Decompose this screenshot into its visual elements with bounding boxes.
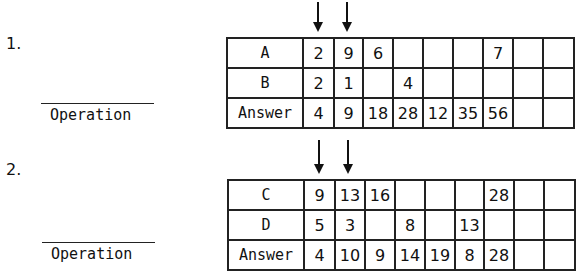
table-row: D 5 3 8 13 xyxy=(228,210,575,240)
table-cell[interactable] xyxy=(513,38,543,68)
row-label: C xyxy=(228,180,304,210)
table-cell[interactable]: 9 xyxy=(334,38,363,68)
table-cell[interactable] xyxy=(544,180,575,210)
table-cell[interactable]: 56 xyxy=(483,98,513,128)
table-cell[interactable]: 18 xyxy=(363,98,393,128)
table-cell[interactable]: 7 xyxy=(483,38,513,68)
table-cell[interactable]: 2 xyxy=(303,38,334,68)
table-cell[interactable]: 6 xyxy=(363,38,393,68)
table-cell[interactable]: 4 xyxy=(393,68,423,98)
row-label: D xyxy=(228,210,304,240)
table-cell[interactable]: 8 xyxy=(455,240,484,270)
table-cell[interactable]: 4 xyxy=(304,240,335,270)
table-cell[interactable] xyxy=(513,68,543,98)
table-cell[interactable]: 9 xyxy=(334,98,363,128)
table-cell[interactable]: 5 xyxy=(304,210,335,240)
table-cell[interactable]: 12 xyxy=(423,98,453,128)
table-cell[interactable]: 35 xyxy=(453,98,483,128)
operation-answer-line xyxy=(42,242,155,243)
table-cell[interactable]: 28 xyxy=(393,98,423,128)
table-cell[interactable]: 1 xyxy=(334,68,363,98)
table-cell[interactable] xyxy=(453,68,483,98)
table-cell[interactable] xyxy=(543,38,574,68)
number-table: A 2 9 6 7 B 2 1 4 Answer 4 9 18 28 12 35… xyxy=(226,37,575,129)
operation-answer-line xyxy=(41,103,154,104)
table-cell[interactable] xyxy=(544,210,575,240)
table-cell[interactable] xyxy=(363,68,393,98)
table-row: Answer 4 9 18 28 12 35 56 xyxy=(227,98,574,128)
table-cell[interactable]: 8 xyxy=(395,210,425,240)
table-row: C 9 13 16 28 xyxy=(228,180,575,210)
operation-label: Operation xyxy=(51,245,132,263)
table-cell[interactable] xyxy=(453,38,483,68)
table-cell[interactable] xyxy=(455,180,484,210)
problem-number: 2. xyxy=(6,160,21,179)
table-cell[interactable] xyxy=(513,98,543,128)
table-row: Answer 4 10 9 14 19 8 28 xyxy=(228,240,575,270)
table-cell[interactable] xyxy=(543,68,574,98)
table-cell[interactable]: 9 xyxy=(365,240,395,270)
row-label: Answer xyxy=(227,98,303,128)
table-cell[interactable]: 3 xyxy=(335,210,365,240)
table-cell[interactable]: 9 xyxy=(304,180,335,210)
table-row: B 2 1 4 xyxy=(227,68,574,98)
table-cell[interactable] xyxy=(543,98,574,128)
row-label: B xyxy=(227,68,303,98)
table-cell[interactable] xyxy=(423,68,453,98)
table-cell[interactable]: 4 xyxy=(303,98,334,128)
table-cell[interactable] xyxy=(484,210,514,240)
table-cell[interactable] xyxy=(514,240,544,270)
table-cell[interactable] xyxy=(544,240,575,270)
table-cell[interactable]: 16 xyxy=(365,180,395,210)
problem-number: 1. xyxy=(6,34,21,53)
number-table: C 9 13 16 28 D 5 3 8 13 Answer 4 10 9 14… xyxy=(227,179,576,271)
table-cell[interactable]: 14 xyxy=(395,240,425,270)
table-cell[interactable]: 28 xyxy=(484,240,514,270)
table-cell[interactable]: 13 xyxy=(335,180,365,210)
row-label: Answer xyxy=(228,240,304,270)
table-cell[interactable] xyxy=(514,180,544,210)
row-label: A xyxy=(227,38,303,68)
table-cell[interactable] xyxy=(514,210,544,240)
table-cell[interactable] xyxy=(425,180,455,210)
table-cell[interactable]: 10 xyxy=(335,240,365,270)
table-cell[interactable] xyxy=(423,38,453,68)
table-cell[interactable]: 28 xyxy=(484,180,514,210)
operation-label: Operation xyxy=(50,106,131,124)
table-cell[interactable]: 13 xyxy=(455,210,484,240)
table-cell[interactable] xyxy=(483,68,513,98)
table-cell[interactable] xyxy=(365,210,395,240)
table-cell[interactable] xyxy=(393,38,423,68)
table-cell[interactable] xyxy=(425,210,455,240)
table-cell[interactable]: 19 xyxy=(425,240,455,270)
table-cell[interactable]: 2 xyxy=(303,68,334,98)
table-row: A 2 9 6 7 xyxy=(227,38,574,68)
table-cell[interactable] xyxy=(395,180,425,210)
